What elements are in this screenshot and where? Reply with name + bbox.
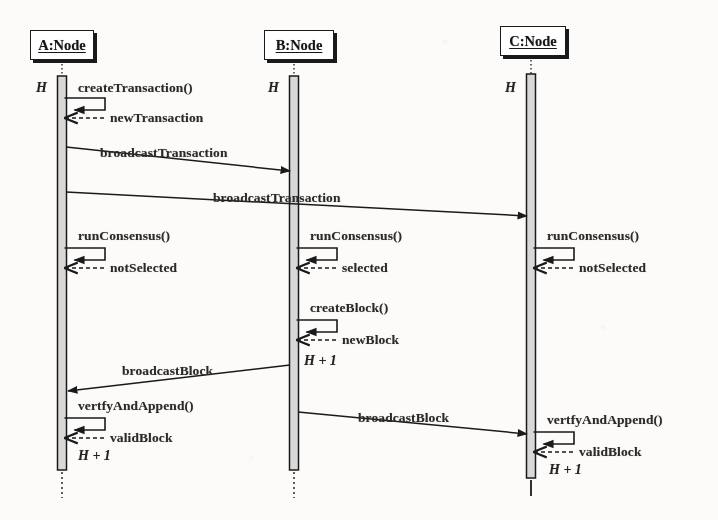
self-return-label-c-runConsensus: notSelected — [579, 260, 646, 276]
message-label-m3: broadcastBlock — [122, 363, 213, 379]
activation-bar-c[interactable] — [527, 74, 536, 478]
self-call-label-b-createBlock: createBlock() — [310, 300, 388, 316]
h-a-validblock: H + 1 — [78, 448, 111, 464]
self-return-label-b-runConsensus: selected — [342, 260, 388, 276]
lifeline-header-c[interactable]: C:Node — [500, 26, 566, 56]
self-call-label-a-runConsensus: runConsensus() — [78, 228, 170, 244]
lifeline-name-c: C:Node — [509, 33, 557, 50]
lifeline-header-a[interactable]: A:Node — [30, 30, 94, 60]
self-call-c-runConsensus[interactable] — [534, 248, 575, 260]
self-return-label-b-createBlock: newBlock — [342, 332, 399, 348]
height-label-c: H — [505, 80, 516, 96]
message-label-m1: broadcastTransaction — [100, 145, 228, 161]
sequence-diagram-canvas: A:NodeHB:NodeHC:NodeHcreateTransaction()… — [0, 0, 718, 520]
self-return-label-a-createTransaction: newTransaction — [110, 110, 203, 126]
height-label-a: H — [36, 80, 47, 96]
self-call-label-c-runConsensus: runConsensus() — [547, 228, 639, 244]
self-call-b-runConsensus[interactable] — [297, 248, 338, 260]
h-b-newblock: H + 1 — [304, 353, 337, 369]
self-return-label-a-runConsensus: notSelected — [110, 260, 177, 276]
lifeline-name-b: B:Node — [276, 37, 323, 54]
self-call-label-a-createTransaction: createTransaction() — [78, 80, 193, 96]
activation-bar-a[interactable] — [58, 76, 67, 470]
lifeline-name-a: A:Node — [38, 37, 86, 54]
self-return-label-a-verifyAndAppend: validBlock — [110, 430, 173, 446]
message-label-m2: broadcastTransaction — [213, 190, 341, 206]
lifeline-header-b[interactable]: B:Node — [264, 30, 334, 60]
h-c-validblock: H + 1 — [549, 462, 582, 478]
self-call-label-c-verifyAndAppend: vertfyAndAppend() — [547, 412, 663, 428]
self-call-b-createBlock[interactable] — [297, 320, 338, 332]
self-call-c-verifyAndAppend[interactable] — [534, 432, 575, 444]
self-return-label-c-verifyAndAppend: validBlock — [579, 444, 642, 460]
message-label-m4: broadcastBlock — [358, 410, 449, 426]
self-call-a-createTransaction[interactable] — [65, 98, 106, 110]
self-call-label-b-runConsensus: runConsensus() — [310, 228, 402, 244]
self-call-a-runConsensus[interactable] — [65, 248, 106, 260]
height-label-b: H — [268, 80, 279, 96]
self-call-label-a-verifyAndAppend: vertfyAndAppend() — [78, 398, 194, 414]
activation-bar-b[interactable] — [290, 76, 299, 470]
self-call-a-verifyAndAppend[interactable] — [65, 418, 106, 430]
